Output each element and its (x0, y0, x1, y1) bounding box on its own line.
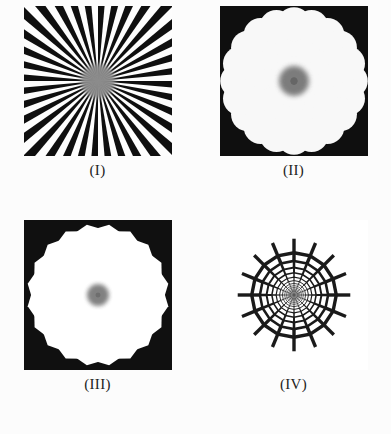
panel-4-artwork (220, 220, 368, 370)
figure-root: (I) (II) (III) (IV) (0, 0, 391, 434)
spider-web-svg (220, 220, 368, 370)
panel-2-artwork (220, 6, 368, 156)
panel-2-label: (II) (283, 163, 304, 178)
panel-3-artwork (24, 220, 172, 370)
panel-radial-spoke-starburst: (I) (0, 6, 195, 216)
cell-array-svg (24, 220, 172, 370)
panel-1-label: (I) (90, 163, 106, 178)
panel-radial-dot-array: (II) (196, 6, 391, 216)
dot-array-svg (220, 6, 368, 156)
panel-4-label: (IV) (280, 377, 307, 392)
panel-3-label: (III) (84, 377, 110, 392)
panel-spider-web: (IV) (196, 220, 391, 430)
panel-1-artwork (24, 6, 172, 156)
panel-radial-cell-array: (III) (0, 220, 195, 430)
starburst-svg (24, 6, 172, 156)
